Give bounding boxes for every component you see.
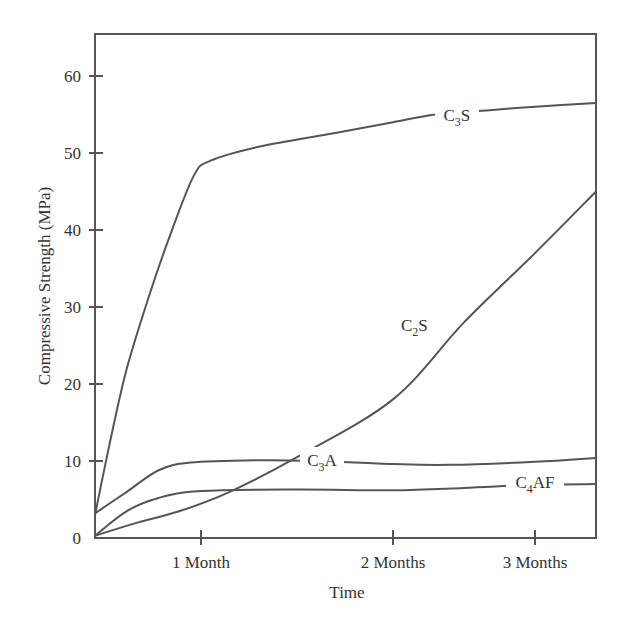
y-tick-label: 50 [64,144,81,163]
series-line [95,103,596,515]
series-c3s: C3S [95,102,596,515]
x-axis-title: Time [329,583,364,602]
series-group: C3SC2SC3AC4AF [95,102,596,536]
y-tick-label: 0 [73,529,82,548]
y-tick-label: 60 [64,67,81,86]
x-tick-label: 1 Month [172,553,231,572]
y-axis-title: Compressive Strength (MPa) [35,187,54,385]
y-tick-label: 20 [64,375,81,394]
series-line [95,484,596,536]
compressive-strength-chart: 0102030405060 1 Month2 Months3 Months C3… [0,0,629,625]
y-tick-label: 40 [64,221,81,240]
y-tick-label: 10 [64,452,81,471]
y-tick-label: 30 [64,298,81,317]
series-label: C4AF [515,473,554,496]
y-axis-ticks: 0102030405060 [64,67,103,548]
x-tick-label: 3 Months [503,553,568,572]
x-axis-ticks: 1 Month2 Months3 Months [172,530,567,572]
x-tick-label: 2 Months [361,553,426,572]
series-c4af: C4AF [95,469,596,536]
